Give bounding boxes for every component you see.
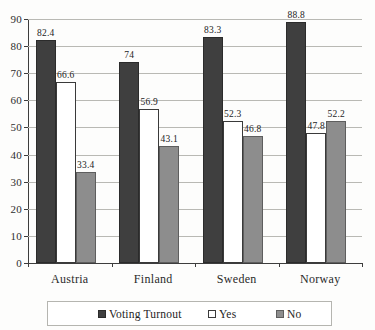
bar-no: [326, 121, 346, 263]
bar-value-label: 43.1: [151, 134, 187, 144]
legend-item-yes[interactable]: Yes: [208, 308, 236, 320]
legend-label: Voting Turnout: [109, 308, 182, 320]
bar-yes: [139, 109, 159, 263]
category-label-finland: Finland: [112, 272, 196, 287]
y-axis-tick-label: 10: [0, 230, 22, 242]
bar-value-label: 52.2: [318, 109, 354, 119]
bar-value-label: 88.8: [278, 10, 314, 20]
x-axis-tick-mark: [28, 263, 29, 267]
x-axis-tick-mark: [195, 263, 196, 267]
y-axis-tick-label: 0: [0, 257, 22, 269]
bar-group: 82.466.633.4: [36, 19, 96, 263]
bar-turnout: [119, 62, 139, 263]
legend-swatch-icon: [98, 310, 106, 318]
y-axis-tick-label: 30: [0, 176, 22, 188]
bar-value-label: 83.3: [195, 25, 231, 35]
chart-legend: Voting TurnoutYesNo: [47, 301, 332, 326]
y-axis-tick-label: 90: [0, 13, 22, 25]
bar-value-label: 52.3: [215, 109, 251, 119]
plot-area: 82.466.633.47456.943.183.352.346.888.847…: [28, 19, 362, 263]
bar-group: 88.847.852.2: [286, 19, 346, 263]
bar-no: [243, 136, 263, 263]
bar-value-label: 56.9: [131, 97, 167, 107]
legend-swatch-icon: [208, 310, 216, 318]
y-axis-tick-label: 60: [0, 94, 22, 106]
bar-group: 7456.943.1: [119, 19, 179, 263]
bar-turnout: [203, 37, 223, 263]
bar-value-label: 46.8: [235, 124, 271, 134]
legend-label: Yes: [219, 308, 236, 320]
bar-value-label: 66.6: [48, 70, 84, 80]
bar-group: 83.352.346.8: [203, 19, 263, 263]
bar-no: [159, 146, 179, 263]
y-axis-tick-label: 40: [0, 149, 22, 161]
legend-label: No: [287, 308, 301, 320]
x-axis-tick-mark: [362, 263, 363, 267]
category-label-norway: Norway: [279, 272, 363, 287]
bar-value-label: 74: [111, 50, 147, 60]
y-axis-tick-label: 70: [0, 67, 22, 79]
y-axis-tick-label: 50: [0, 121, 22, 133]
bar-turnout: [286, 22, 306, 263]
legend-item-no[interactable]: No: [276, 308, 301, 320]
bar-no: [76, 172, 96, 263]
legend-item-turnout[interactable]: Voting Turnout: [98, 308, 182, 320]
bar-value-label: 82.4: [28, 28, 64, 38]
category-label-sweden: Sweden: [195, 272, 279, 287]
bar-yes: [223, 121, 243, 263]
chart-page: 9080706050403020100 82.466.633.47456.943…: [0, 0, 375, 330]
bar-yes: [306, 133, 326, 263]
legend-swatch-icon: [276, 310, 284, 318]
category-label-austria: Austria: [28, 272, 112, 287]
y-axis-tick-label: 80: [0, 40, 22, 52]
bar-yes: [56, 82, 76, 263]
x-axis-tick-mark: [112, 263, 113, 267]
bar-value-label: 33.4: [68, 160, 104, 170]
y-axis-tick-label: 20: [0, 203, 22, 215]
x-axis-tick-mark: [279, 263, 280, 267]
